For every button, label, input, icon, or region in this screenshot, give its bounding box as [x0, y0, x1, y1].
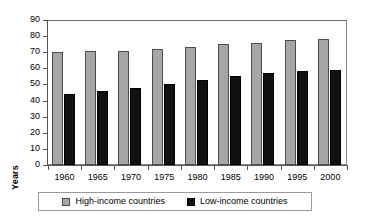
legend-label-high-income: High-income countries: [75, 197, 165, 206]
x-axis-tick-mark: [247, 166, 248, 170]
y-axis-tick-mark: [43, 149, 47, 150]
bar-group: [81, 20, 114, 165]
legend-label-low-income: Low-income countries: [200, 197, 288, 206]
y-axis-tick-mark: [43, 68, 47, 69]
chart-legend: High-income countries Low-income countri…: [38, 192, 312, 211]
bar-low-income: [297, 71, 308, 165]
bar-low-income: [97, 91, 108, 165]
bar-series-container: [48, 20, 347, 165]
y-axis-tick-mark: [43, 84, 47, 85]
bar-high-income: [285, 40, 296, 165]
x-axis-line: [47, 165, 348, 166]
y-axis-tick-mark: [43, 20, 47, 21]
bar-low-income: [230, 76, 241, 165]
y-axis-tick-label: 0: [16, 160, 40, 169]
y-axis-tick-mark: [43, 165, 47, 166]
y-axis-tick-label: 80: [16, 31, 40, 40]
y-axis-tick-label: 90: [16, 15, 40, 24]
bar-high-income: [318, 39, 329, 165]
y-axis-tick-label: 10: [16, 144, 40, 153]
bar-group: [148, 20, 181, 165]
bar-high-income: [118, 51, 129, 165]
y-axis-tick-label: 20: [16, 128, 40, 137]
x-axis-tick-mark: [114, 166, 115, 170]
x-axis-tick-mark: [347, 166, 348, 170]
bar-low-income: [263, 73, 274, 165]
x-axis-tick-mark: [48, 166, 49, 170]
y-axis-tick-label: 30: [16, 112, 40, 121]
bar-group: [247, 20, 280, 165]
bar-high-income: [251, 43, 262, 165]
x-axis-tick-label: 2000: [310, 172, 350, 182]
y-axis-tick-mark: [43, 52, 47, 53]
bar-group: [114, 20, 147, 165]
y-axis-tick-mark: [43, 36, 47, 37]
bar-low-income: [64, 94, 75, 165]
bar-high-income: [218, 44, 229, 165]
y-axis-tick-mark: [43, 117, 47, 118]
y-axis-tick-label: 40: [16, 96, 40, 105]
y-axis-tick-label: 70: [16, 47, 40, 56]
bar-high-income: [185, 47, 196, 165]
x-axis-tick-mark: [81, 166, 82, 170]
bar-high-income: [85, 51, 96, 165]
x-axis-tick-mark: [148, 166, 149, 170]
x-axis-tick-mark: [181, 166, 182, 170]
black-swatch-icon: [187, 198, 195, 206]
x-axis-tick-mark: [281, 166, 282, 170]
x-axis-tick-mark: [314, 166, 315, 170]
bar-chart: Years 0102030405060708090 19601965197019…: [0, 0, 376, 223]
y-axis-tick-label: 50: [16, 79, 40, 88]
bar-low-income: [164, 84, 175, 165]
bar-low-income: [330, 70, 341, 165]
gray-swatch-icon: [62, 198, 70, 206]
legend-item-high-income: High-income countries: [62, 197, 165, 206]
bar-group: [314, 20, 347, 165]
y-axis-tick-mark: [43, 101, 47, 102]
legend-item-low-income: Low-income countries: [187, 197, 288, 206]
bar-high-income: [152, 49, 163, 165]
y-axis-tick-mark: [43, 133, 47, 134]
bar-low-income: [130, 88, 141, 165]
bar-high-income: [52, 52, 63, 165]
bar-group: [214, 20, 247, 165]
x-axis-tick-mark: [214, 166, 215, 170]
bar-low-income: [197, 80, 208, 165]
bar-group: [48, 20, 81, 165]
bar-group: [181, 20, 214, 165]
y-axis-tick-label: 60: [16, 63, 40, 72]
bar-group: [281, 20, 314, 165]
